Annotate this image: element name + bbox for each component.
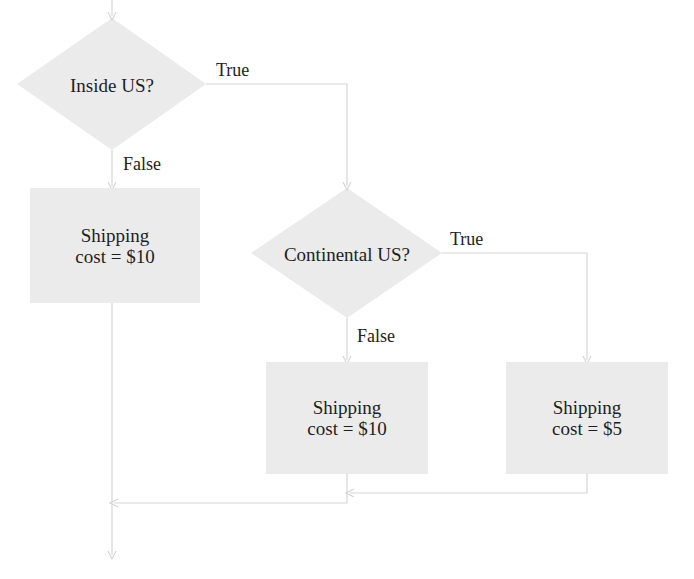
process-shipping-outside-us: Shipping cost = $10 bbox=[30, 188, 200, 303]
process-shipping-non-continental: Shipping cost = $10 bbox=[266, 362, 428, 474]
inside-us-true-arrow bbox=[206, 84, 347, 186]
process-line1: Shipping bbox=[552, 397, 622, 418]
edge-label-continental-true: True bbox=[450, 229, 483, 250]
edge-label-inside-us-true: True bbox=[216, 60, 249, 81]
decision-inside-us-label: Inside US? bbox=[70, 75, 154, 97]
box3-merge-arrow bbox=[350, 474, 587, 493]
process-line1: Shipping bbox=[75, 225, 154, 246]
process-line2: cost = $10 bbox=[75, 246, 154, 267]
edge-label-continental-false: False bbox=[357, 326, 395, 347]
process-line2: cost = $5 bbox=[552, 418, 622, 439]
continental-true-arrow bbox=[442, 253, 587, 360]
process-line2: cost = $10 bbox=[307, 418, 386, 439]
process-line1: Shipping bbox=[307, 397, 386, 418]
box2-merge-arrow bbox=[114, 474, 347, 503]
edge-label-inside-us-false: False bbox=[123, 154, 161, 175]
process-shipping-continental: Shipping cost = $5 bbox=[506, 362, 668, 474]
decision-continental-us-label: Continental US? bbox=[284, 244, 410, 266]
